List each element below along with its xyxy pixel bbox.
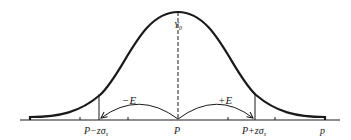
center-label: P (173, 125, 180, 136)
plus-e-label: +E (218, 94, 232, 106)
normal-curve-diagram: Y0 −E +E P−zσs P P+zσs p (0, 0, 351, 140)
right-bound-label: P+zσs (241, 125, 267, 137)
peak-label: Y0 (174, 20, 182, 31)
minus-e-label: −E (122, 94, 136, 106)
left-bound-label: P−zσs (83, 125, 109, 137)
axis-variable-label: p (319, 125, 325, 136)
plus-e-arrow (178, 104, 253, 119)
minus-e-arrow (101, 104, 178, 119)
